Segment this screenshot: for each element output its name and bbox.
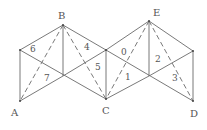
- vertex-label-a: A: [10, 107, 19, 118]
- face-label-1: 1: [125, 72, 131, 82]
- face-label-0: 0: [121, 47, 127, 57]
- vertex-label-c: C: [102, 105, 110, 116]
- face-label-7: 7: [44, 73, 50, 83]
- right-module-edges: [106, 21, 193, 101]
- vertex-label-b: B: [58, 10, 65, 21]
- left-module-edges: [20, 25, 106, 101]
- vertex-label-e: E: [153, 7, 160, 18]
- vertex-label-d: D: [190, 108, 198, 119]
- face-label-3: 3: [172, 73, 178, 83]
- face-label-6: 6: [30, 44, 36, 54]
- right-module-dashed: [106, 21, 193, 101]
- face-label-5: 5: [95, 62, 101, 72]
- vertex-dots: [19, 20, 194, 102]
- net-diagram: B A C E D 6 7 4 5 0 1 2 3: [0, 0, 207, 130]
- face-label-2: 2: [155, 54, 161, 64]
- face-label-4: 4: [84, 42, 90, 52]
